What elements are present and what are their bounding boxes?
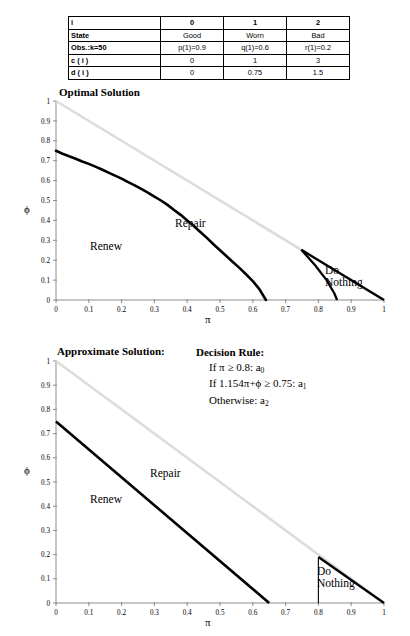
- region-label-renew-2: Renew: [90, 493, 122, 505]
- decision-rule-line-3: Otherwise: a2: [196, 393, 307, 410]
- y-axis-tick-label: 0: [46, 600, 50, 608]
- approximate-solution-plot: 00.10.20.30.40.50.60.70.80.9100.10.20.30…: [0, 0, 410, 636]
- decision-rule-block: Decision Rule: If π ≥ 0.8: a0 If 1.154π+…: [196, 345, 307, 409]
- y-axis-tick-label: 0.9: [41, 382, 50, 390]
- decision-rule-line-1-sub: 0: [261, 366, 265, 375]
- approximate-solution-chart: Approximate Solution: 00.10.20.30.40.50.…: [0, 0, 410, 636]
- x-axis-tick-label: 1: [382, 609, 386, 617]
- y-axis-tick-label: 0.4: [41, 503, 50, 511]
- region-label-repair-2: Repair: [150, 467, 181, 479]
- decision-rule-line-2-sub: 1: [303, 382, 307, 391]
- y-axis-tick-label: 0.3: [41, 527, 50, 535]
- decision-rule-line-1-text: If π ≥ 0.8: a: [209, 361, 261, 373]
- x-axis-tick-label: 0.6: [248, 609, 257, 617]
- x-axis-tick-label: 0.1: [84, 609, 93, 617]
- decision-rule-line-3-text: Otherwise: a: [209, 394, 265, 406]
- x-axis-tick-label: 0: [54, 609, 58, 617]
- decision-rule-heading: Decision Rule:: [196, 345, 307, 360]
- x-axis-tick-label: 0.4: [183, 609, 192, 617]
- y-axis-tick-label: 0.8: [41, 406, 50, 414]
- x-axis-title-chart2: π: [205, 616, 211, 628]
- x-axis-tick-label: 0.2: [117, 609, 126, 617]
- decision-rule-line-2: If 1.154π+ϕ ≥ 0.75: a1: [196, 376, 307, 393]
- decision-rule-line-3-sub: 2: [265, 399, 269, 408]
- region-label-do-nothing-2: Do Nothing: [317, 566, 355, 589]
- do-nothing-line2-2: Nothing: [317, 578, 355, 590]
- series-renew-repair-boundary: [56, 422, 269, 604]
- y-axis-title-chart2: ϕ: [24, 464, 30, 476]
- y-axis-tick-label: 0.7: [41, 430, 50, 438]
- decision-rule-line-1: If π ≥ 0.8: a0: [196, 360, 307, 377]
- x-axis-tick-label: 0.7: [281, 609, 290, 617]
- x-axis-tick-label: 0.9: [347, 609, 356, 617]
- y-axis-tick-label: 0.6: [41, 454, 50, 462]
- x-axis-tick-label: 0.8: [314, 609, 323, 617]
- y-axis-tick-label: 0.2: [41, 551, 50, 559]
- y-axis-tick-label: 0.1: [41, 575, 50, 583]
- y-axis-tick-label: 0.5: [41, 479, 50, 487]
- decision-rule-line-2-text: If 1.154π+ϕ ≥ 0.75: a: [209, 377, 303, 389]
- do-nothing-line1-2: Do: [317, 566, 355, 578]
- x-axis-tick-label: 0.5: [216, 609, 225, 617]
- y-axis-tick-label: 1: [46, 358, 50, 366]
- x-axis-tick-label: 0.3: [150, 609, 159, 617]
